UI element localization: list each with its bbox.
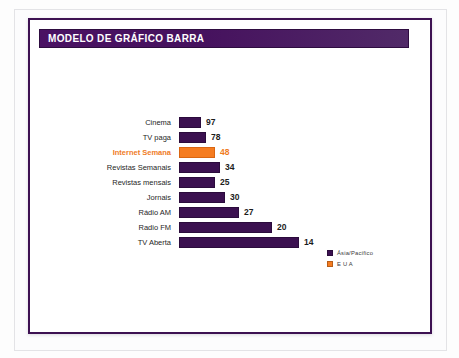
category-label: Revistas Semanais	[30, 163, 177, 172]
bar-value-label: 14	[304, 237, 313, 248]
category-label: Radio FM	[30, 223, 177, 232]
bar	[179, 132, 206, 143]
legend-label: E U A	[337, 261, 353, 267]
legend-item: E U A	[327, 259, 417, 268]
category-label: Jornais	[30, 193, 177, 202]
bar-value-label: 34	[225, 162, 234, 173]
bar	[179, 117, 201, 128]
slide-inner: MODELO DE GRÁFICO BARRA Cinema97TV paga7…	[30, 20, 430, 332]
bar	[179, 222, 272, 233]
chart-row: Cinema97	[30, 115, 434, 130]
bar-value-label: 78	[211, 132, 220, 143]
legend-label: Ásia/Pacífico	[337, 250, 373, 256]
bar	[179, 192, 225, 203]
bar	[179, 177, 215, 188]
bar-value-label: 97	[206, 117, 215, 128]
chart-row: Internet Semana48	[30, 145, 434, 160]
bar-value-label: 20	[277, 222, 286, 233]
chart-row: Jornais30	[30, 190, 434, 205]
category-label: Internet Semana	[30, 148, 177, 157]
category-label: Rádio AM	[30, 208, 177, 217]
legend-swatch-icon	[327, 261, 333, 267]
bar-value-label: 27	[244, 207, 253, 218]
bar-value-label: 25	[220, 177, 229, 188]
legend-swatch-icon	[327, 250, 333, 256]
chart-row: Revistas Semanais34	[30, 160, 434, 175]
slide-title-banner: MODELO DE GRÁFICO BARRA	[39, 29, 409, 48]
chart-row: Radio FM20	[30, 220, 434, 235]
bar-value-label: 30	[230, 192, 239, 203]
category-label: TV paga	[30, 133, 177, 142]
bar	[179, 237, 299, 248]
scanned-page: MODELO DE GRÁFICO BARRA Cinema97TV paga7…	[0, 0, 459, 358]
bar	[179, 147, 215, 158]
chart-legend: Ásia/PacíficoE U A	[327, 248, 417, 270]
bar-value-label: 48	[220, 147, 229, 158]
slide: MODELO DE GRÁFICO BARRA Cinema97TV paga7…	[28, 18, 432, 334]
category-label: TV Aberta	[30, 238, 177, 247]
bar	[179, 162, 220, 173]
legend-item: Ásia/Pacífico	[327, 248, 417, 257]
chart-row: Revistas mensais25	[30, 175, 434, 190]
bar	[179, 207, 239, 218]
category-label: Cinema	[30, 118, 177, 127]
page-title: MODELO DE GRÁFICO BARRA	[40, 33, 204, 44]
category-label: Revistas mensais	[30, 178, 177, 187]
chart-row: Rádio AM27	[30, 205, 434, 220]
chart-row: TV paga78	[30, 130, 434, 145]
